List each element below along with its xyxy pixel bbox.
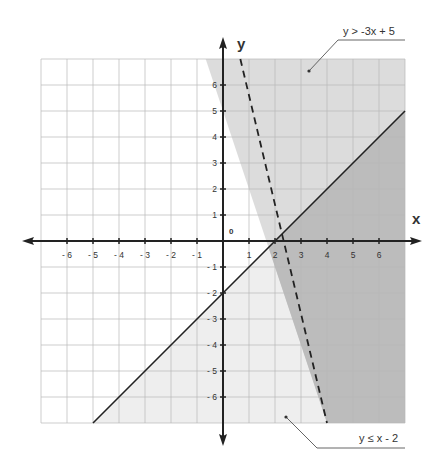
x-tick-label: 3 xyxy=(299,250,304,260)
y-tick-label: 4 xyxy=(212,132,217,142)
inequality-1-label: y > -3x + 5 xyxy=(343,25,395,37)
y-tick-label: - 6 xyxy=(207,392,217,402)
x-tick-label: - 2 xyxy=(166,250,176,260)
y-tick-label: 5 xyxy=(212,106,217,116)
y-tick-label: - 1 xyxy=(207,262,217,272)
y-tick-label: 1 xyxy=(212,210,217,220)
x-tick-label: 6 xyxy=(377,250,382,260)
y-tick-label: 3 xyxy=(212,158,217,168)
y-tick-label: - 3 xyxy=(207,314,217,324)
origin-label: 0 xyxy=(229,227,234,236)
x-tick-label: - 1 xyxy=(192,250,202,260)
x-tick-label: 4 xyxy=(325,250,330,260)
x-tick-label: - 3 xyxy=(140,250,150,260)
y-tick-label: - 5 xyxy=(207,366,217,376)
x-axis-label: x xyxy=(412,210,421,227)
y-axis-label: y xyxy=(237,35,246,52)
y-tick-label: - 2 xyxy=(207,288,217,298)
y-tick-label: 6 xyxy=(212,80,217,90)
x-tick-label: 1 xyxy=(247,250,252,260)
x-tick-label: 5 xyxy=(351,250,356,260)
x-tick-label: - 6 xyxy=(62,250,72,260)
inequality-2-label: y ≤ x - 2 xyxy=(359,432,398,444)
x-tick-label: 2 xyxy=(273,250,278,260)
inequality-graph: - 6- 5- 4- 3- 2- 1123456654321- 1- 2- 3-… xyxy=(0,0,441,470)
y-tick-label: 2 xyxy=(212,184,217,194)
x-tick-label: - 5 xyxy=(88,250,98,260)
y-tick-label: - 4 xyxy=(207,340,217,350)
x-tick-label: - 4 xyxy=(114,250,124,260)
